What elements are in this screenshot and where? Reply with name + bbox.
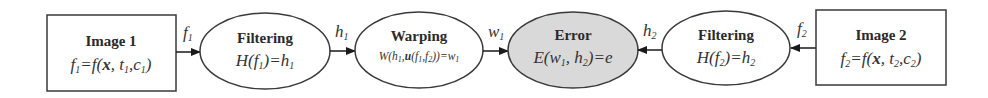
edge-label-w1: w1	[488, 22, 504, 42]
warping-title: Warping	[391, 28, 448, 44]
filtering-1-title: Filtering	[237, 30, 293, 46]
edge-label-h1: h1	[335, 22, 349, 42]
node-filtering-2: Filtering H(f2)=h2	[662, 11, 790, 85]
filtering-2-title: Filtering	[698, 27, 754, 43]
node-warping: Warping W(h1,u(f1,f2))=w1	[355, 12, 483, 88]
diagram-canvas: Image 1 f1=f(x, t1,c1) f1 Filtering H(f1…	[0, 0, 988, 98]
error-equation: E(w1, h2)=e	[532, 48, 613, 68]
image-1-box	[47, 15, 176, 91]
image-2-box	[816, 10, 946, 85]
edge-h1: h1	[330, 22, 355, 51]
image-2-title: Image 2	[855, 27, 906, 43]
image-1-equation: f1=f(x, t1,c1)	[71, 55, 152, 75]
image-1-title: Image 1	[85, 33, 136, 49]
node-error: Error E(w1, h2)=e	[508, 12, 638, 88]
edge-label-f1: f1	[183, 23, 193, 43]
warping-ellipse	[355, 12, 483, 88]
error-title: Error	[554, 27, 592, 43]
edge-h2: h2	[638, 21, 662, 50]
filtering-1-equation: H(f1)=h1	[235, 51, 294, 71]
image-2-equation: f2=f(x, t2,c2)	[841, 49, 922, 69]
edge-f1: f1	[176, 23, 200, 52]
flow-diagram: Image 1 f1=f(x, t1,c1) f1 Filtering H(f1…	[0, 0, 988, 98]
edge-label-h2: h2	[643, 21, 657, 41]
node-filtering-1: Filtering H(f1)=h1	[200, 13, 330, 89]
edge-label-f2: f2	[797, 19, 807, 39]
edge-w1: w1	[483, 22, 508, 51]
filtering-2-equation: H(f2)=h2	[696, 48, 755, 68]
node-image-1: Image 1 f1=f(x, t1,c1)	[47, 15, 176, 91]
node-image-2: Image 2 f2=f(x, t2,c2)	[816, 10, 946, 85]
edge-f2: f2	[791, 19, 816, 48]
